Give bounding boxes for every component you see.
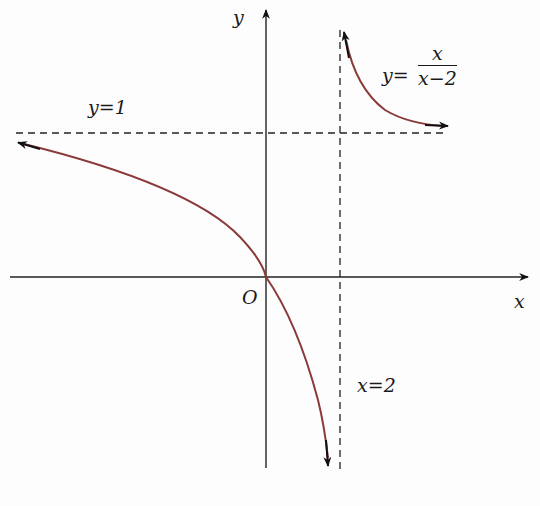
equation-numerator: x — [418, 42, 457, 66]
equation-denominator: x−2 — [418, 66, 457, 89]
arrowhead-up — [344, 32, 349, 58]
vertical-asymptote-label: x=2 — [357, 374, 396, 396]
x-axis-label: x — [514, 290, 525, 312]
equation-fraction: x x−2 — [418, 42, 457, 89]
origin-label: O — [242, 286, 258, 308]
graph-figure: y x O y=1 x=2 y= x x−2 — [0, 0, 540, 506]
arrowhead-down — [326, 440, 328, 466]
equation-lhs: y= — [382, 64, 409, 86]
horizontal-asymptote-label: y=1 — [88, 96, 127, 118]
curve-left-branch — [20, 143, 328, 458]
arrowhead-right — [425, 125, 448, 126]
arrowhead-left — [18, 143, 40, 150]
plot-canvas — [0, 0, 540, 506]
y-axis-label: y — [233, 6, 244, 28]
